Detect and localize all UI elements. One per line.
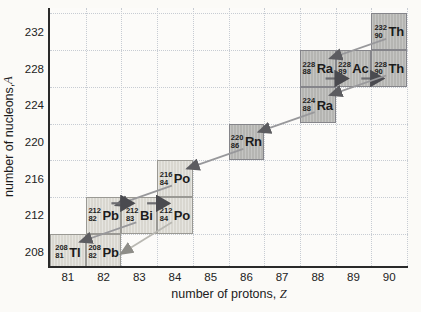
- element-symbol: Ra: [317, 98, 333, 113]
- nuclide-numbers: 23290: [374, 24, 387, 40]
- gridline-vertical: [264, 8, 265, 266]
- x-tick-89: 89: [339, 271, 369, 283]
- gridline-vertical: [193, 8, 194, 266]
- x-tick-83: 83: [124, 271, 154, 283]
- y-tick-216: 216: [14, 172, 44, 186]
- y-tick-208: 208: [14, 245, 44, 259]
- gridline-vertical: [407, 8, 408, 266]
- gridline-horizontal: [50, 160, 408, 161]
- y-tick-212: 212: [14, 208, 44, 222]
- atomic-number: 83: [126, 215, 134, 223]
- y-tick-232: 232: [14, 25, 44, 39]
- gridline-horizontal: [50, 87, 408, 88]
- gridline-horizontal: [50, 13, 408, 14]
- nuclide-box-th232: 23290Th: [371, 13, 407, 50]
- nuclide-numbers: 22889: [338, 61, 351, 77]
- element-symbol: Th: [388, 61, 403, 76]
- x-tick-81: 81: [53, 271, 83, 283]
- gridline-vertical: [300, 8, 301, 266]
- atomic-number: 90: [374, 32, 382, 40]
- element-symbol: Po: [174, 171, 190, 186]
- nuclide-box-pb212: 21282Pb: [86, 197, 122, 234]
- plot-area: 23290Th22888Ra22889Ac22890Th22488Ra22086…: [48, 8, 408, 268]
- atomic-number: 81: [55, 252, 63, 260]
- x-tick-90: 90: [374, 271, 404, 283]
- element-symbol: Rn: [245, 134, 262, 149]
- nuclide-box-bi212: 21283Bi: [121, 197, 157, 234]
- nuclide-numbers: 22890: [374, 61, 387, 77]
- atomic-number: 82: [88, 215, 96, 223]
- nuclide-box-ra224: 22488Ra: [300, 87, 336, 124]
- nuclide-numbers: 22888: [303, 61, 316, 77]
- y-tick-224: 224: [14, 98, 44, 112]
- element-symbol: Bi: [140, 208, 153, 223]
- x-tick-82: 82: [89, 271, 119, 283]
- nuclide-box-ac228: 22889Ac: [336, 50, 372, 87]
- y-tick-220: 220: [14, 135, 44, 149]
- element-symbol: Tl: [69, 245, 80, 260]
- nuclide-box-po216: 21684Po: [157, 160, 193, 197]
- nuclide-numbers: 21284: [160, 207, 173, 223]
- x-tick-86: 86: [231, 271, 261, 283]
- x-axis-title: number of protons, Z: [50, 287, 408, 302]
- atomic-number: 84: [160, 215, 168, 223]
- y-tick-228: 228: [14, 62, 44, 76]
- atomic-number: 84: [160, 179, 168, 187]
- decay-series-figure: number of nucleons, A 23290Th22888Ra2288…: [0, 0, 421, 312]
- element-symbol: Pb: [102, 245, 118, 260]
- atomic-number: 82: [88, 252, 96, 260]
- x-tick-87: 87: [267, 271, 297, 283]
- nuclide-box-th228: 22890Th: [371, 50, 407, 87]
- nuclide-numbers: 22488: [303, 97, 316, 113]
- atomic-number: 90: [374, 68, 382, 76]
- gridline-vertical: [336, 8, 337, 266]
- nuclide-numbers: 21282: [88, 207, 101, 223]
- nuclide-box-tl208: 20881Tl: [50, 234, 86, 268]
- nuclide-numbers: 20881: [55, 244, 68, 260]
- atomic-number: 86: [231, 142, 239, 150]
- x-axis-title-text: number of protons,: [171, 287, 279, 301]
- nuclide-box-po212: 21284Po: [157, 197, 193, 234]
- atomic-number: 88: [303, 105, 311, 113]
- x-tick-85: 85: [196, 271, 226, 283]
- x-tick-88: 88: [303, 271, 333, 283]
- atomic-number: 88: [303, 68, 311, 76]
- nuclide-numbers: 20882: [88, 244, 101, 260]
- nuclide-box-pb208: 20882Pb: [86, 234, 122, 268]
- nuclide-numbers: 22086: [231, 134, 244, 150]
- atomic-number: 89: [338, 68, 346, 76]
- element-symbol: Ac: [352, 61, 368, 76]
- element-symbol: Pb: [102, 208, 118, 223]
- nuclide-box-rn220: 22086Rn: [229, 124, 265, 161]
- element-symbol: Th: [388, 24, 403, 39]
- element-symbol: Po: [174, 208, 190, 223]
- x-axis-variable: Z: [280, 287, 287, 301]
- y-axis-variable: A: [1, 77, 16, 85]
- nuclide-numbers: 21283: [126, 207, 139, 223]
- nuclide-box-ra228: 22888Ra: [300, 50, 336, 87]
- element-symbol: Ra: [317, 61, 333, 76]
- nuclide-numbers: 21684: [160, 171, 173, 187]
- x-tick-84: 84: [160, 271, 190, 283]
